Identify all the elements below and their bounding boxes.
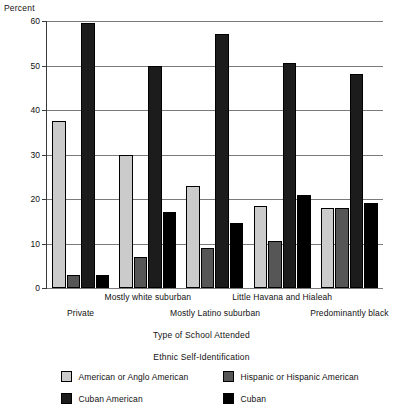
y-tick-label: 30	[31, 150, 40, 160]
bar	[230, 223, 244, 288]
bar	[350, 74, 364, 288]
bar	[283, 63, 297, 288]
bar	[215, 34, 229, 288]
x-axis-label: Mostly Latino suburban	[170, 308, 260, 318]
legend-item-label: Cuban	[241, 394, 267, 404]
bar-group	[181, 21, 248, 288]
bar	[96, 275, 110, 288]
y-tick-label: 60	[31, 16, 40, 26]
bar	[81, 23, 95, 288]
legend-item-label: Cuban American	[79, 394, 143, 404]
bar	[268, 241, 282, 288]
legend: Ethnic Self-Identification American or A…	[0, 352, 403, 411]
legend-swatch-icon	[223, 371, 234, 382]
legend-item[interactable]: Hispanic or Hispanic American	[223, 371, 359, 382]
legend-item[interactable]: Cuban	[223, 393, 267, 404]
legend-swatch-icon	[223, 393, 234, 404]
bar	[52, 121, 66, 288]
bar-group	[249, 21, 316, 288]
x-axis-title: Type of School Attended	[0, 330, 403, 340]
bar	[335, 208, 349, 288]
y-tick-label: 20	[31, 194, 40, 204]
plot-area: 0102030405060	[47, 21, 383, 288]
bar	[186, 186, 200, 288]
bar	[67, 275, 81, 288]
bar	[134, 257, 148, 288]
bar	[119, 155, 133, 289]
bar	[254, 206, 268, 288]
legend-item-label: Hispanic or Hispanic American	[241, 372, 359, 382]
x-axis-group-labels: PrivateMostly white suburbanMostly Latin…	[47, 289, 383, 329]
bars-layer	[47, 21, 383, 288]
y-tick-label: 0	[35, 283, 40, 293]
bar	[163, 212, 177, 288]
y-axis-title: Percent	[4, 3, 35, 13]
legend-swatch-icon	[61, 371, 72, 382]
legend-item[interactable]: Cuban American	[61, 393, 143, 404]
bar-group	[47, 21, 114, 288]
bar-group	[316, 21, 383, 288]
y-tick-label: 40	[31, 105, 40, 115]
bar	[297, 195, 311, 288]
legend-items: American or Anglo AmericanHispanic or Hi…	[27, 371, 377, 411]
bar	[321, 208, 335, 288]
bar	[148, 66, 162, 289]
legend-swatch-icon	[61, 393, 72, 404]
y-tick-label: 50	[31, 61, 40, 71]
x-axis-label: Little Havana and Hialeah	[232, 292, 332, 302]
legend-item[interactable]: American or Anglo American	[61, 371, 189, 382]
legend-item-label: American or Anglo American	[79, 372, 189, 382]
bar	[201, 248, 215, 288]
bar	[364, 203, 378, 288]
bar-group	[114, 21, 181, 288]
x-axis-label: Predominantly black	[310, 308, 388, 318]
x-axis-label: Private	[67, 308, 94, 318]
y-tick-label: 10	[31, 239, 40, 249]
legend-title: Ethnic Self-Identification	[0, 352, 403, 362]
x-axis-label: Mostly white suburban	[104, 292, 191, 302]
